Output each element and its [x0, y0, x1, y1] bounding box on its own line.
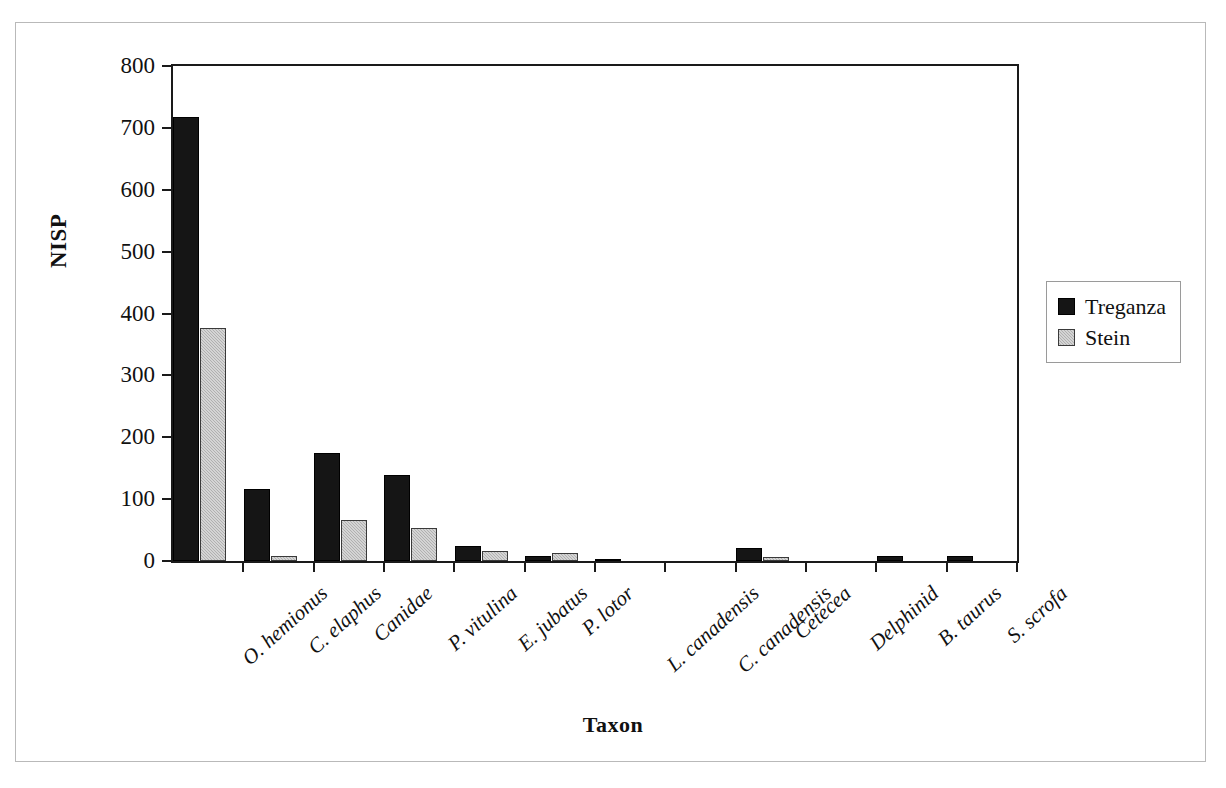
x-tick-mark — [664, 563, 666, 572]
y-tick-mark — [162, 498, 171, 500]
bar-stein — [200, 328, 226, 561]
x-tick-mark — [383, 563, 385, 572]
bar-group — [244, 66, 297, 561]
bar-group — [314, 66, 367, 561]
bar-treganza — [595, 559, 621, 561]
bar-group — [736, 66, 789, 561]
bar-group — [173, 66, 226, 561]
x-axis-label: Delphinid — [864, 581, 942, 655]
bar-group — [666, 66, 719, 561]
bar-treganza — [173, 117, 199, 561]
y-tick-label: 800 — [121, 51, 156, 80]
legend-item: Treganza — [1058, 291, 1166, 322]
y-tick-mark — [162, 189, 171, 191]
y-tick-label: 100 — [121, 484, 156, 513]
bars-container — [173, 66, 1017, 561]
y-tick-mark — [162, 436, 171, 438]
bar-treganza — [525, 556, 551, 561]
bar-group — [525, 66, 578, 561]
y-tick-mark — [162, 560, 171, 562]
bar-treganza — [314, 453, 340, 561]
bar-group — [806, 66, 859, 561]
y-tick-label: 0 — [144, 546, 156, 575]
bar-treganza — [947, 556, 973, 561]
y-axis: 0100200300400500600700800 — [0, 0, 171, 630]
x-tick-mark — [313, 563, 315, 572]
bar-stein — [482, 551, 508, 561]
x-axis-label: P. vitulina — [442, 581, 521, 656]
bar-group — [384, 66, 437, 561]
y-tick-label: 700 — [121, 113, 156, 142]
bar-treganza — [877, 556, 903, 561]
x-tick-mark — [875, 563, 877, 572]
bar-stein — [341, 520, 367, 561]
bar-group — [947, 66, 1000, 561]
x-tick-mark — [735, 563, 737, 572]
legend-label: Treganza — [1085, 294, 1166, 320]
x-tick-mark — [1016, 563, 1018, 572]
x-tick-mark — [946, 563, 948, 572]
bar-stein — [411, 528, 437, 561]
x-tick-mark — [594, 563, 596, 572]
bar-stein — [271, 556, 297, 561]
x-axis-title: Taxon — [0, 712, 1226, 738]
bar-group — [595, 66, 648, 561]
y-tick-mark — [162, 374, 171, 376]
bar-treganza — [384, 475, 410, 561]
x-axis-label: P. lotor — [577, 581, 639, 640]
legend-item: Stein — [1058, 322, 1166, 353]
x-tick-mark — [524, 563, 526, 572]
x-axis-label: B. taurus — [933, 581, 1006, 650]
bar-treganza — [736, 548, 762, 561]
y-tick-label: 200 — [121, 422, 156, 451]
chart-page: 0100200300400500600700800 NISP O. hemion… — [0, 0, 1226, 788]
y-tick-label: 500 — [121, 237, 156, 266]
plot-area — [171, 64, 1019, 563]
bar-stein — [763, 557, 789, 561]
x-tick-mark — [242, 563, 244, 572]
chart-legend: TreganzaStein — [1046, 281, 1181, 363]
bar-group — [455, 66, 508, 561]
y-tick-mark — [162, 65, 171, 67]
legend-label: Stein — [1085, 325, 1130, 351]
bar-treganza — [455, 546, 481, 561]
x-tick-mark — [453, 563, 455, 572]
y-tick-label: 300 — [121, 360, 156, 389]
black-square-icon — [1058, 298, 1075, 315]
gray-square-icon — [1058, 329, 1075, 346]
bar-treganza — [244, 489, 270, 561]
bar-group — [877, 66, 930, 561]
y-tick-mark — [162, 251, 171, 253]
y-tick-label: 600 — [121, 175, 156, 204]
y-tick-mark — [162, 127, 171, 129]
x-tick-mark — [805, 563, 807, 572]
y-axis-title: NISP — [46, 214, 72, 268]
y-tick-label: 400 — [121, 299, 156, 328]
y-tick-mark — [162, 313, 171, 315]
bar-stein — [552, 553, 578, 561]
